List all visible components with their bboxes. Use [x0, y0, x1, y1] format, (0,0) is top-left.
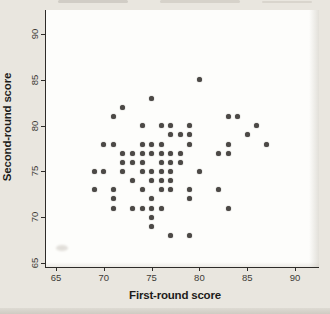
y-axis-tick — [41, 171, 45, 172]
data-point — [187, 132, 192, 137]
data-point — [197, 77, 202, 82]
x-tick-label: 75 — [141, 272, 163, 283]
data-point — [111, 206, 116, 211]
data-point — [178, 151, 183, 156]
y-axis-title: Second-round score — [1, 17, 13, 237]
scan-artifact — [0, 308, 330, 314]
data-point — [254, 123, 259, 128]
data-point — [140, 160, 145, 165]
data-point — [149, 96, 154, 101]
data-point — [111, 142, 116, 147]
data-point — [149, 196, 154, 201]
data-point — [92, 187, 97, 192]
x-tick-label: 85 — [236, 272, 258, 283]
data-point — [187, 123, 192, 128]
data-point — [149, 206, 154, 211]
data-point — [140, 123, 145, 128]
data-point — [111, 187, 116, 192]
data-point — [159, 151, 164, 156]
data-point — [226, 142, 231, 147]
y-tick-label: 75 — [27, 164, 41, 178]
x-axis-tick — [104, 267, 105, 271]
data-point — [149, 224, 154, 229]
data-point — [197, 169, 202, 174]
data-point — [168, 169, 173, 174]
data-point — [168, 187, 173, 192]
data-point — [111, 196, 116, 201]
y-tick-label: 70 — [27, 210, 41, 224]
y-axis-tick — [41, 34, 45, 35]
data-point — [149, 215, 154, 220]
data-point — [120, 169, 125, 174]
data-point — [159, 142, 164, 147]
data-point — [159, 178, 164, 183]
data-point — [140, 142, 145, 147]
data-point — [130, 160, 135, 165]
data-point — [178, 132, 183, 137]
x-axis-tick — [295, 267, 296, 271]
x-axis-tick — [152, 267, 153, 271]
y-tick-label: 65 — [27, 256, 41, 270]
scan-artifact — [160, 0, 240, 3]
data-point — [111, 114, 116, 119]
data-point — [140, 169, 145, 174]
data-point — [130, 206, 135, 211]
data-point — [92, 169, 97, 174]
data-point — [168, 233, 173, 238]
data-point — [140, 206, 145, 211]
scan-artifact — [56, 245, 68, 251]
data-point — [120, 151, 125, 156]
data-point — [120, 105, 125, 110]
scan-artifact — [58, 0, 128, 3]
data-point — [140, 151, 145, 156]
data-point — [235, 114, 240, 119]
data-point — [187, 142, 192, 147]
data-point — [226, 114, 231, 119]
data-point — [159, 187, 164, 192]
data-point — [159, 160, 164, 165]
data-point — [216, 151, 221, 156]
data-point — [120, 160, 125, 165]
data-point — [187, 196, 192, 201]
data-point — [187, 187, 192, 192]
y-axis-tick — [41, 217, 45, 218]
x-axis-tick — [247, 267, 248, 271]
x-tick-label: 90 — [284, 272, 306, 283]
y-tick-label: 80 — [27, 119, 41, 133]
y-axis-tick — [41, 80, 45, 81]
y-axis-tick — [41, 126, 45, 127]
x-axis-tick — [56, 267, 57, 271]
x-tick-label: 70 — [93, 272, 115, 283]
x-tick-label: 65 — [45, 272, 67, 283]
data-point — [140, 187, 145, 192]
plot-area: 657075808590657075808590 — [45, 10, 319, 268]
x-axis-tick — [199, 267, 200, 271]
data-point — [178, 160, 183, 165]
data-point — [226, 206, 231, 211]
data-point — [226, 151, 231, 156]
data-point — [149, 178, 154, 183]
page-edge-shadow — [46, 262, 319, 267]
data-point — [159, 206, 164, 211]
scatterplot-figure: 657075808590657075808590 First-round sco… — [0, 0, 330, 314]
data-point — [149, 151, 154, 156]
data-point — [149, 142, 154, 147]
page-edge-shadow — [309, 10, 319, 267]
data-point — [130, 151, 135, 156]
y-tick-label: 90 — [27, 27, 41, 41]
data-point — [168, 151, 173, 156]
data-point — [187, 233, 192, 238]
x-tick-label: 80 — [188, 272, 210, 283]
data-point — [216, 187, 221, 192]
x-axis-title: First-round score — [45, 289, 305, 301]
data-point — [168, 178, 173, 183]
data-point — [101, 169, 106, 174]
data-point — [168, 132, 173, 137]
data-point — [159, 123, 164, 128]
data-point — [149, 169, 154, 174]
y-axis-tick — [41, 263, 45, 264]
data-point — [130, 178, 135, 183]
data-point — [264, 142, 269, 147]
data-point — [168, 160, 173, 165]
data-point — [159, 169, 164, 174]
